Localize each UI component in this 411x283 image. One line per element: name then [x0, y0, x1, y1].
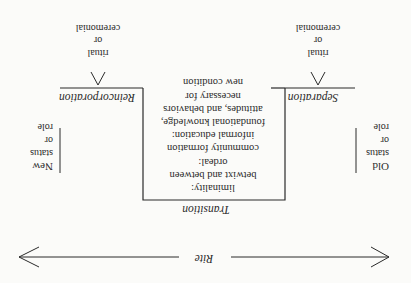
ritual-line: or	[58, 34, 138, 47]
ritual-line: or	[278, 34, 358, 47]
new-status-label: New status or role	[19, 121, 53, 173]
old-status-label: Old status or role	[359, 121, 389, 173]
reincorporation-label: Reincorporation	[51, 92, 143, 104]
transition-label: Transition	[161, 204, 251, 216]
ritual-line: ritual	[278, 47, 358, 60]
rite-of-passage-diagram: Rite Transition liminality: betwixt and …	[0, 0, 411, 283]
transition-line: foundational knowledge,	[143, 116, 283, 129]
status-line: or	[359, 134, 389, 147]
transition-line: new condition	[143, 76, 283, 89]
rite-label: Rite	[182, 253, 226, 265]
reincorporation-ritual-note: ritual or ceremonial	[58, 22, 138, 60]
transition-line: liminality:	[143, 182, 283, 195]
separation-ritual-note: ritual or ceremonial	[278, 22, 358, 60]
status-line: status	[359, 147, 389, 160]
status-line: Old	[359, 160, 389, 173]
transition-line: betwixt and between	[143, 169, 283, 182]
status-line: role	[19, 121, 53, 134]
transition-line: community formation	[143, 142, 283, 155]
separation-marker	[311, 72, 325, 85]
transition-line: ordeal:	[143, 155, 283, 168]
transition-line: informal education:	[143, 129, 283, 142]
ritual-line: ceremonial	[58, 22, 138, 35]
separation-label: Separation	[275, 92, 351, 104]
transition-description: liminality: betwixt and between ordeal: …	[143, 76, 283, 195]
ritual-line: ceremonial	[278, 22, 358, 35]
status-line: role	[359, 121, 389, 134]
status-line: status	[19, 147, 53, 160]
ritual-line: ritual	[58, 47, 138, 60]
transition-line: necessary for	[143, 89, 283, 102]
reincorporation-marker	[91, 72, 105, 85]
status-line: New	[19, 160, 53, 173]
status-line: or	[19, 134, 53, 147]
transition-line: attitudes, and behaviors	[143, 103, 283, 116]
